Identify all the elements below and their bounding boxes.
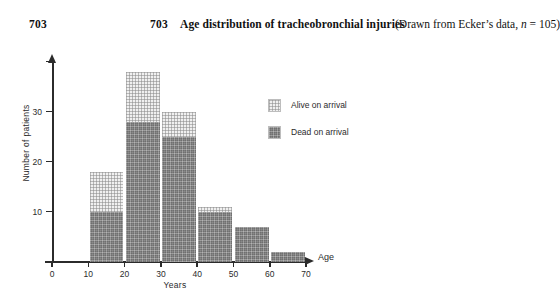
x-tick-label: 0 bbox=[41, 269, 63, 279]
y-tick-mark bbox=[46, 161, 53, 163]
x-tick-label: 60 bbox=[259, 269, 281, 279]
bar-segment-alive bbox=[126, 72, 160, 122]
bar-20-30 bbox=[126, 72, 160, 262]
x-axis-arrow-label: Age bbox=[318, 252, 334, 262]
x-tick-mark bbox=[88, 261, 90, 267]
bar-segment-alive bbox=[90, 172, 124, 212]
x-tick-mark bbox=[160, 261, 162, 267]
bar-segment-dead bbox=[271, 252, 305, 262]
legend-label-dead: Dead on arrival bbox=[291, 127, 349, 137]
bar-segment-dead bbox=[126, 122, 160, 262]
legend-swatch-dead-icon bbox=[268, 126, 281, 139]
bar-segment-alive bbox=[162, 112, 196, 137]
x-tick-label: 50 bbox=[223, 269, 245, 279]
bar-50-60 bbox=[235, 227, 269, 262]
x-tick-label: 10 bbox=[77, 269, 99, 279]
bar-60-70 bbox=[271, 252, 305, 262]
x-tick-label: 30 bbox=[150, 269, 172, 279]
bar-segment-dead bbox=[198, 212, 232, 262]
x-tick-mark bbox=[51, 261, 53, 267]
x-tick-mark bbox=[124, 261, 126, 267]
y-tick-label: 20 bbox=[0, 157, 42, 167]
x-tick-label: 70 bbox=[295, 269, 317, 279]
x-tick-label: 20 bbox=[114, 269, 136, 279]
bar-30-40 bbox=[162, 112, 196, 262]
x-tick-mark bbox=[196, 261, 198, 267]
bar-segment-dead bbox=[90, 212, 124, 262]
bar-segment-dead bbox=[162, 137, 196, 262]
y-tick-mark-unlabeled bbox=[46, 61, 53, 63]
bar-segment-dead bbox=[235, 227, 269, 262]
y-tick-label: 10 bbox=[0, 207, 42, 217]
x-tick-mark bbox=[233, 261, 235, 267]
y-tick-mark bbox=[46, 211, 53, 213]
x-tick-label: 40 bbox=[186, 269, 208, 279]
y-tick-label: 30 bbox=[0, 107, 42, 117]
legend-swatch-alive-icon bbox=[268, 99, 281, 112]
x-tick-mark bbox=[269, 261, 271, 267]
bar-40-50 bbox=[198, 207, 232, 262]
y-tick-mark bbox=[46, 111, 53, 113]
legend-label-alive: Alive on arrival bbox=[291, 100, 347, 110]
x-tick-mark bbox=[305, 261, 307, 267]
bar-10-20 bbox=[90, 172, 124, 262]
x-axis-label: Years bbox=[135, 280, 215, 290]
